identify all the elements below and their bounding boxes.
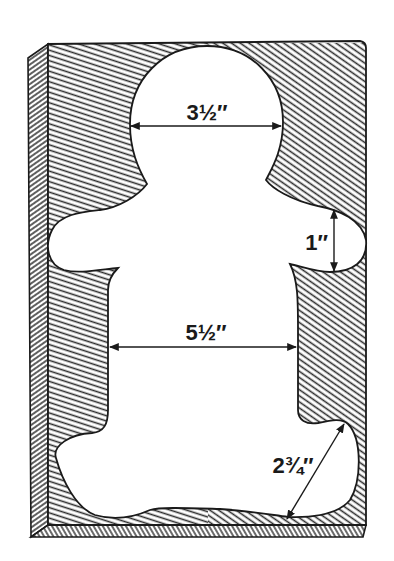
dimension-label-foot-length: 2¾″ <box>272 453 314 478</box>
dimension-label-head-width: 3½″ <box>186 100 228 125</box>
block-bottom-edge <box>31 525 366 537</box>
dimension-label-body-width: 5½″ <box>185 320 227 345</box>
dimension-label-arm-height: 1″ <box>305 230 328 255</box>
block-left-side <box>28 44 48 537</box>
gingerbread-cutout-diagram: 3½″ 1″ 5½″ 2¾″ <box>0 0 394 561</box>
